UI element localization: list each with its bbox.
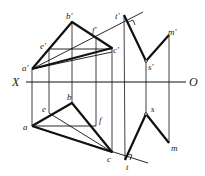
point-s-prime	[145, 60, 148, 63]
polyline-t-s-m-top	[125, 114, 169, 160]
label-m: m	[171, 143, 178, 153]
label-c: c	[107, 154, 111, 164]
label-m-prime: m'	[168, 27, 177, 37]
label-c-prime: c'	[113, 45, 120, 55]
polyline-t-s-m-front	[124, 15, 169, 61]
label-e-prime: e'	[40, 41, 47, 51]
front-view	[32, 12, 169, 69]
axis-label-x: X	[11, 75, 20, 89]
label-f-prime: f'	[92, 25, 98, 35]
line-e-c	[49, 113, 112, 152]
orthographic-projection-diagram: X O a' b' c' e' f' t' s' m' a	[0, 0, 205, 176]
top-view	[32, 103, 169, 163]
label-b: b	[67, 92, 72, 102]
label-e: e	[42, 104, 46, 114]
label-t: t	[126, 162, 129, 172]
axis-label-o: O	[189, 75, 198, 89]
label-f: f	[99, 115, 103, 125]
label-s-prime: s'	[148, 62, 155, 72]
label-s: s	[151, 104, 155, 114]
label-a: a	[23, 122, 28, 132]
label-t-prime: t'	[115, 11, 121, 21]
label-b-prime: b'	[66, 11, 74, 21]
point-s	[145, 113, 148, 116]
label-a-prime: a'	[22, 63, 30, 73]
